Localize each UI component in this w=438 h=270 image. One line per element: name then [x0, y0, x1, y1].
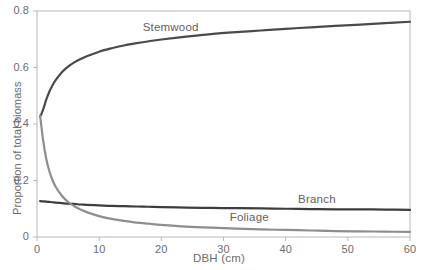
biomass-proportion-chart: Proportion of total biomass DBH (cm) Ste… [0, 0, 438, 270]
x-tick-label: 60 [390, 243, 430, 255]
y-tick-label: 0.6 [0, 61, 29, 73]
x-tick-label: 10 [79, 243, 119, 255]
series-label-branch: Branch [298, 193, 336, 205]
plot-frame [37, 11, 410, 237]
y-axis-title: Proportion of total biomass [11, 81, 23, 215]
curve-branch [40, 201, 410, 210]
series-label-foliage: Foliage [230, 211, 269, 223]
axis-ticks [33, 11, 410, 241]
series-label-stemwood: Stemwood [143, 21, 199, 33]
x-tick-label: 0 [17, 243, 57, 255]
x-tick-label: 50 [328, 243, 368, 255]
x-tick-label: 30 [204, 243, 244, 255]
y-tick-label: 0 [0, 230, 29, 242]
plot-canvas [0, 0, 438, 270]
y-tick-label: 0.2 [0, 174, 29, 186]
x-tick-label: 40 [266, 243, 306, 255]
plot-frame-rect [37, 11, 410, 237]
curve-foliage [40, 116, 410, 232]
data-curves [40, 22, 410, 232]
x-tick-label: 20 [141, 243, 181, 255]
y-tick-label: 0.4 [0, 117, 29, 129]
y-tick-label: 0.8 [0, 4, 29, 16]
curve-stemwood [40, 22, 410, 117]
